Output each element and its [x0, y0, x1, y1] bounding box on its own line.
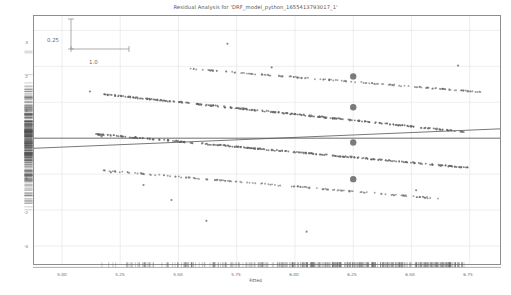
x-tick-label: 5.00: [50, 272, 74, 277]
x-tick-label: 6.50: [398, 272, 422, 277]
scale-legend-vertical-label: 0.25: [47, 37, 59, 43]
x-rug-canvas: [33, 258, 501, 268]
x-tick-label: 5.25: [108, 272, 132, 277]
scale-legend-marks: [33, 15, 163, 75]
x-axis-label: Fitted: [0, 278, 511, 283]
x-tick-label: 6.75: [456, 272, 480, 277]
x-tick-label: 5.75: [224, 272, 248, 277]
x-tick-label: 6.00: [282, 272, 306, 277]
y-rug-canvas: [24, 15, 33, 265]
y-rug-plot: [24, 15, 33, 265]
x-tick-label: 6.25: [340, 272, 364, 277]
scale-legend: 0.25 1.0: [33, 15, 163, 75]
chart-title: Residual Analysis for 'DRF_model_python_…: [0, 4, 511, 10]
residual-analysis-chart: Residual Analysis for 'DRF_model_python_…: [0, 0, 511, 295]
scale-legend-horizontal-label: 1.0: [89, 59, 98, 65]
x-rug-plot: [33, 258, 501, 268]
x-tick-label: 5.50: [166, 272, 190, 277]
